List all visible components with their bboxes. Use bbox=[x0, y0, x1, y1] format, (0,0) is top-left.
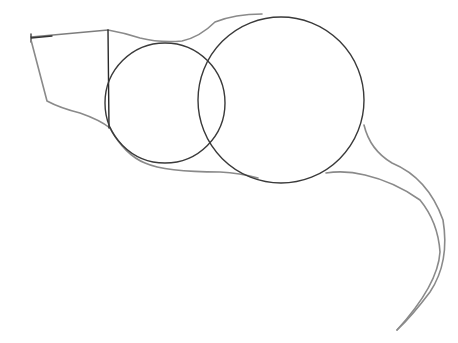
sketch-canvas bbox=[0, 0, 458, 343]
rump-belly-outline bbox=[326, 172, 440, 330]
mouse-sketch bbox=[0, 0, 458, 343]
head-guide-line bbox=[108, 30, 109, 128]
snout-bottom-line bbox=[31, 40, 110, 128]
body-circle bbox=[198, 17, 364, 183]
snout-top-line bbox=[31, 30, 108, 37]
tail-upper-outline bbox=[364, 125, 445, 330]
